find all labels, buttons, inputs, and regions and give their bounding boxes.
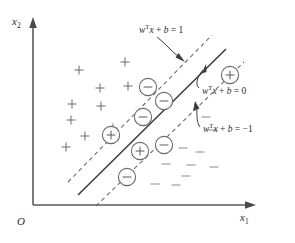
support-vector-negative: [134, 108, 151, 125]
figure-canvas: [0, 0, 295, 243]
support-vector-positive: [221, 66, 238, 83]
annotation-pointers-group: [157, 37, 207, 127]
positive-point: [62, 143, 71, 152]
x-axis-label: x1: [240, 212, 249, 226]
positive-point: [67, 116, 76, 125]
support-vector-positive: [102, 126, 119, 143]
pointer-margin-negative: [193, 101, 200, 127]
y-axis-label: x2: [12, 16, 21, 30]
y-axis-arrowhead: [29, 17, 37, 28]
positive-point: [81, 132, 90, 141]
hyperplane-label: wTx + b = 0: [202, 85, 246, 97]
support-vector-negative: [155, 92, 172, 109]
support-vector-negative: [155, 136, 172, 153]
support-vector-positive: [131, 142, 148, 159]
positive-point: [75, 66, 84, 75]
support-vector-negative: [139, 78, 156, 95]
positive-point: [97, 102, 106, 111]
positive-point: [68, 100, 77, 109]
svm-margin-figure: x2 x1 O wTx + b = 1 wTx + b = 0 wTx + b …: [0, 0, 295, 243]
positive-point: [96, 84, 105, 93]
support-vector-negative: [118, 168, 135, 185]
positive-point: [124, 82, 133, 91]
hyperplane-group: [68, 35, 244, 206]
margin-positive-label: wTx + b = 1: [139, 24, 183, 36]
origin-label: O: [17, 216, 25, 227]
positive-points-group: [62, 58, 133, 152]
x-axis-arrowhead: [245, 201, 256, 209]
positive-point: [121, 58, 130, 67]
margin-negative-label: wTx + b = −1: [203, 123, 253, 135]
pointer-margin-positive: [157, 37, 185, 62]
